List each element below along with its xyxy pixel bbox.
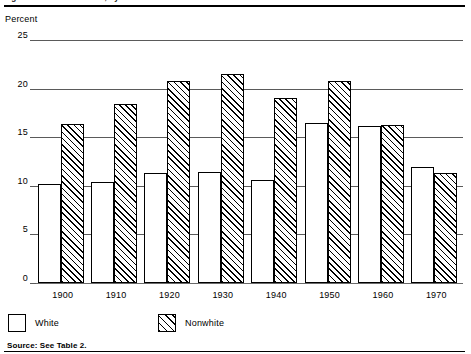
x-axis-tick-label-1920: 1920 xyxy=(143,290,196,300)
bar-white-1940 xyxy=(251,180,274,283)
bar-group-1960 xyxy=(358,40,404,283)
y-tick-mark-25 xyxy=(30,40,36,41)
x-axis-tick-label-1930: 1930 xyxy=(196,290,249,300)
title-divider-rule xyxy=(4,5,465,7)
source-note: Source: See Table 2. xyxy=(7,341,87,350)
bottom-divider-rule xyxy=(4,351,465,352)
bar-nonwhite-1940 xyxy=(274,98,297,283)
bar-white-1920 xyxy=(144,173,167,283)
y-axis-tick-label: 20 xyxy=(0,79,28,89)
gridline-0 xyxy=(36,283,463,284)
x-axis-tick-label-1940: 1940 xyxy=(250,290,303,300)
open-square-swatch xyxy=(8,314,26,332)
bar-nonwhite-1920 xyxy=(167,81,190,283)
bar-white-1930 xyxy=(198,172,221,283)
bar-nonwhite-1960 xyxy=(381,125,404,283)
bar-group-1930 xyxy=(198,40,244,283)
bar-white-1900 xyxy=(38,184,61,283)
x-axis-tick-label-1900: 1900 xyxy=(36,290,89,300)
bar-group-1900 xyxy=(38,40,84,283)
x-axis-tick-label-1970: 1970 xyxy=(410,290,463,300)
bar-nonwhite-1950 xyxy=(328,81,351,283)
bar-white-1950 xyxy=(305,123,328,283)
bar-white-1960 xyxy=(358,126,381,283)
y-tick-mark-5 xyxy=(30,234,36,235)
plot-area xyxy=(36,40,463,283)
y-tick-mark-10 xyxy=(30,186,36,187)
bar-nonwhite-1930 xyxy=(221,74,244,283)
y-axis-tick-label: 15 xyxy=(0,127,28,137)
bar-nonwhite-1900 xyxy=(61,124,84,283)
y-axis-tick-label: 5 xyxy=(0,224,28,234)
x-axis-tick-label-1960: 1960 xyxy=(356,290,409,300)
y-tick-mark-20 xyxy=(30,89,36,90)
chart-legend: WhiteNonwhite xyxy=(8,313,338,339)
bar-group-1940 xyxy=(251,40,297,283)
bar-nonwhite-1910 xyxy=(114,104,137,283)
legend-label: Nonwhite xyxy=(185,318,224,328)
bar-group-1910 xyxy=(91,40,137,283)
bar-group-1920 xyxy=(144,40,190,283)
y-axis-tick-label: 10 xyxy=(0,176,28,186)
y-tick-mark-15 xyxy=(30,137,36,138)
legend-label: White xyxy=(35,318,59,328)
x-axis-tick-label-1910: 1910 xyxy=(89,290,142,300)
bar-white-1910 xyxy=(91,182,114,283)
y-axis-caption: Percent xyxy=(5,14,37,24)
bar-group-1950 xyxy=(305,40,351,283)
figure-title: Figure 3. Percent Illiterate, by Race: 1… xyxy=(4,0,464,3)
x-axis-tick-label-1950: 1950 xyxy=(303,290,356,300)
bar-white-1970 xyxy=(411,167,434,283)
figure-illiteracy-by-race: Figure 3. Percent Illiterate, by Race: 1… xyxy=(0,0,471,354)
bar-group-1970 xyxy=(411,40,457,283)
y-axis-tick-label: 25 xyxy=(0,30,28,40)
y-tick-mark-0 xyxy=(30,283,36,284)
hatched-square-swatch xyxy=(158,314,176,332)
bar-nonwhite-1970 xyxy=(434,173,457,283)
y-axis-tick-label: 0 xyxy=(0,273,28,283)
